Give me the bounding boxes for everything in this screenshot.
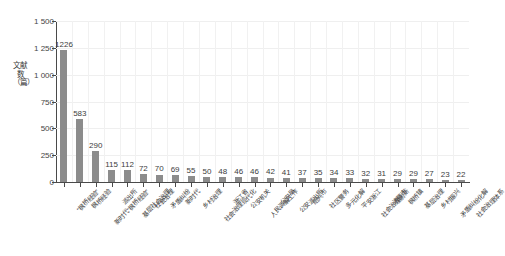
gridline-vertical: [374, 21, 375, 182]
y-axis-tick: [52, 155, 56, 156]
bar-value-label: 22: [457, 170, 466, 179]
gridline-vertical: [151, 21, 152, 182]
x-axis-tick: [445, 183, 446, 187]
bar: [108, 170, 115, 182]
x-axis-tick: [96, 183, 97, 187]
x-axis-tick: [255, 183, 256, 187]
x-axis-tick: [286, 183, 287, 187]
bar-value-label: 34: [330, 168, 339, 177]
bar: [60, 50, 67, 182]
bar: [330, 178, 337, 182]
x-axis-tick: [461, 183, 462, 187]
x-axis-tick: [223, 183, 224, 187]
bar: [442, 180, 449, 182]
bar-value-label: 290: [89, 141, 102, 150]
bar-value-label: 33: [345, 168, 354, 177]
bar-value-label: 27: [425, 169, 434, 178]
x-axis-tick: [127, 183, 128, 187]
bar-value-label: 115: [105, 160, 118, 169]
gridline-vertical: [247, 21, 248, 182]
bar: [299, 178, 306, 182]
bar-value-label: 112: [121, 160, 134, 169]
x-axis-tick: [159, 183, 160, 187]
bar: [219, 177, 226, 182]
x-axis-tick: [143, 183, 144, 187]
bar-value-label: 46: [234, 167, 243, 176]
bar-value-label: 1226: [55, 40, 73, 49]
gridline-vertical: [183, 21, 184, 182]
bar-value-label: 50: [202, 167, 211, 176]
gridline-vertical: [199, 21, 200, 182]
bar-value-label: 29: [409, 169, 418, 178]
gridline-vertical: [215, 21, 216, 182]
gridline-vertical: [135, 21, 136, 182]
y-axis-tick: [52, 75, 56, 76]
gridline-vertical: [167, 21, 168, 182]
bar: [378, 179, 385, 182]
y-axis-tick: [52, 128, 56, 129]
x-axis-tick: [350, 183, 351, 187]
bar: [267, 178, 274, 183]
bar-value-label: 70: [155, 164, 164, 173]
x-axis-tick: [318, 183, 319, 187]
gridline-vertical: [104, 21, 105, 182]
bar: [203, 177, 210, 182]
bar: [235, 177, 242, 182]
bar: [394, 179, 401, 182]
y-axis-tick: [52, 21, 56, 22]
x-axis-tick: [207, 183, 208, 187]
bar-value-label: 31: [377, 169, 386, 178]
bar: [124, 170, 131, 182]
gridline-vertical: [437, 21, 438, 182]
gridline-vertical: [88, 21, 89, 182]
x-axis-tick: [175, 183, 176, 187]
x-axis-tick: [191, 183, 192, 187]
bar-value-label: 35: [314, 168, 323, 177]
bar: [156, 175, 163, 183]
y-axis-tick-label: 1 250: [34, 43, 54, 52]
bar-value-label: 37: [298, 168, 307, 177]
bar: [140, 174, 147, 182]
x-axis-category-label: 绍兴市: [310, 188, 328, 206]
bar: [458, 180, 465, 182]
x-axis-tick: [382, 183, 383, 187]
x-axis-tick: [270, 183, 271, 187]
gridline-vertical: [326, 21, 327, 182]
bar-value-label: 46: [250, 167, 259, 176]
bar: [92, 151, 99, 182]
bar: [188, 176, 195, 182]
bar-value-label: 55: [187, 166, 196, 175]
bar: [426, 179, 433, 182]
x-axis-tick: [429, 183, 430, 187]
gridline-vertical: [421, 21, 422, 182]
bar-value-label: 41: [282, 168, 291, 177]
x-axis-line: [56, 182, 470, 183]
bar: [172, 175, 179, 182]
bar-value-label: 69: [171, 165, 180, 174]
gridline-vertical: [310, 21, 311, 182]
bar-value-label: 72: [139, 164, 148, 173]
bar: [283, 178, 290, 182]
gridline-vertical: [263, 21, 264, 182]
x-axis-tick: [398, 183, 399, 187]
x-axis-tick: [80, 183, 81, 187]
bar-value-label: 42: [266, 167, 275, 176]
gridline-vertical: [453, 21, 454, 182]
gridline-vertical: [342, 21, 343, 182]
gridline-vertical: [120, 21, 121, 182]
x-axis-tick: [112, 183, 113, 187]
y-axis-tick-label: 1 500: [34, 17, 54, 26]
y-axis-tick-labels: 02505007501 0001 2501 500: [22, 0, 54, 256]
bar: [251, 177, 258, 182]
bar-value-label: 583: [73, 109, 86, 118]
gridline-vertical: [278, 21, 279, 182]
gridline-vertical: [294, 21, 295, 182]
bar-value-label: 23: [441, 170, 450, 179]
bar-value-label: 29: [393, 169, 402, 178]
x-axis-tick: [64, 183, 65, 187]
bar: [315, 178, 322, 182]
x-axis-category-label: 乡村治理: [201, 188, 223, 210]
bar: [410, 179, 417, 182]
x-axis-tick: [366, 183, 367, 187]
